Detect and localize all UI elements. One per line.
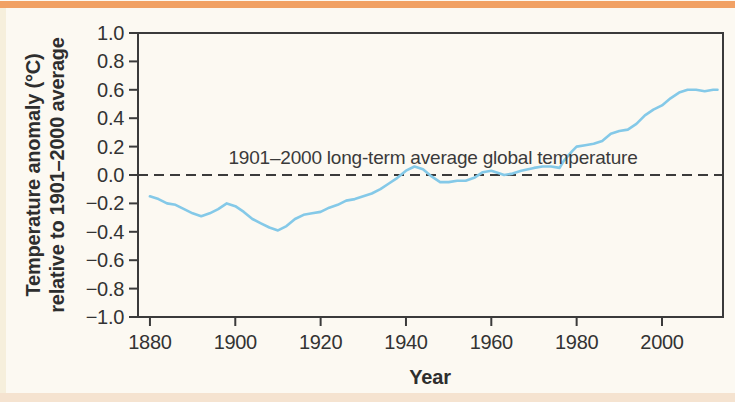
y-axis-title-line2: relative to 1901–2000 average <box>46 37 68 313</box>
x-axis-title: Year <box>409 366 451 388</box>
x-tick-label: 1900 <box>214 331 257 353</box>
y-tick-label: −1.0 <box>86 306 124 328</box>
y-tick-label: 0.8 <box>97 50 124 72</box>
y-tick-label: −0.6 <box>86 249 124 271</box>
x-tick-label: 1880 <box>128 331 171 353</box>
x-tick-label: 1960 <box>470 331 513 353</box>
y-tick-label: 0.4 <box>97 107 124 129</box>
y-tick-label: −0.4 <box>86 221 124 243</box>
y-tick-label: 0.6 <box>97 79 124 101</box>
x-tick-label: 1940 <box>384 331 427 353</box>
x-tick-label: 1980 <box>555 331 598 353</box>
x-tick-label: 2000 <box>640 331 683 353</box>
y-tick-label: −0.2 <box>86 192 124 214</box>
y-tick-label: 1.0 <box>97 22 124 44</box>
y-tick-label: 0.0 <box>97 164 124 186</box>
y-axis-title-line1: Temperature anomaly (°C) <box>22 54 44 297</box>
x-tick-label: 1920 <box>299 331 342 353</box>
y-tick-label: −0.8 <box>86 278 124 300</box>
temperature-anomaly-chart: 1.00.80.60.40.20.0−0.2−0.4−0.6−0.8−1.018… <box>0 0 735 402</box>
y-tick-label: 0.2 <box>97 136 124 158</box>
y-axis-title: Temperature anomaly (°C) relative to 190… <box>22 37 68 313</box>
reference-line-annotation: 1901–2000 long-term average global tempe… <box>228 147 637 168</box>
